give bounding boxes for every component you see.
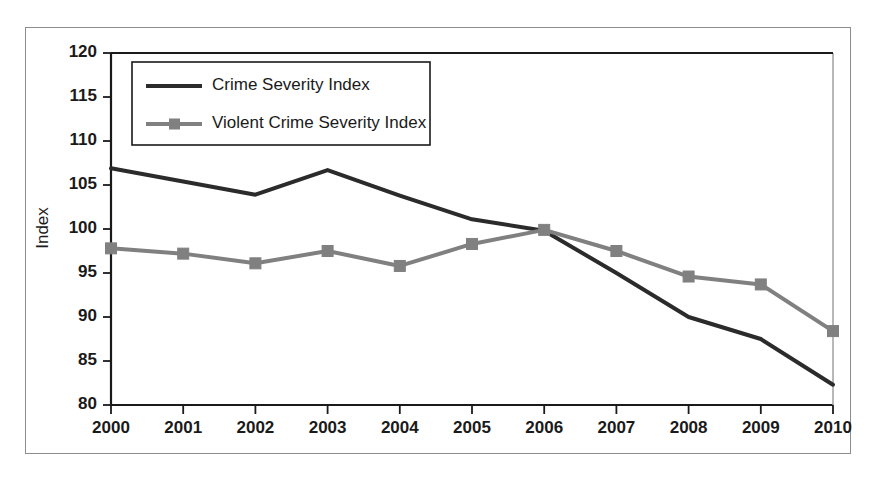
y-tick-label: 85 bbox=[78, 350, 97, 369]
x-tick-label: 2005 bbox=[453, 418, 491, 437]
data-point-marker bbox=[467, 238, 478, 249]
x-tick-label: 2002 bbox=[236, 418, 274, 437]
x-tick-label: 2003 bbox=[309, 418, 347, 437]
x-tick-label: 2009 bbox=[742, 418, 780, 437]
x-tick-label: 2001 bbox=[164, 418, 202, 437]
y-tick-label: 90 bbox=[78, 306, 97, 325]
data-point-marker bbox=[322, 246, 333, 257]
data-point-marker bbox=[539, 224, 550, 235]
y-tick-label: 100 bbox=[69, 218, 97, 237]
legend-label-1: Violent Crime Severity Index bbox=[212, 113, 427, 132]
data-point-marker bbox=[611, 246, 622, 257]
y-tick-label: 95 bbox=[78, 262, 97, 281]
y-tick-label: 120 bbox=[69, 42, 97, 61]
line-chart-plot: 80859095100105110115120 2000200120022003… bbox=[0, 0, 878, 478]
series-line-0 bbox=[111, 168, 833, 384]
legend-marker-1 bbox=[169, 119, 180, 130]
data-series-group bbox=[106, 168, 839, 384]
y-axis-title: Index bbox=[33, 207, 52, 249]
chart-figure: 80859095100105110115120 2000200120022003… bbox=[0, 0, 878, 478]
chart-legend: Crime Severity IndexViolent Crime Severi… bbox=[132, 62, 430, 145]
x-tick-label: 2004 bbox=[381, 418, 419, 437]
x-tick-label: 2006 bbox=[525, 418, 563, 437]
y-axis: 80859095100105110115120 bbox=[69, 42, 111, 413]
x-tick-label: 2008 bbox=[670, 418, 708, 437]
data-point-marker bbox=[755, 279, 766, 290]
data-point-marker bbox=[106, 243, 117, 254]
y-tick-label: 105 bbox=[69, 174, 97, 193]
data-point-marker bbox=[250, 258, 261, 269]
y-tick-label: 115 bbox=[70, 86, 97, 105]
data-point-marker bbox=[683, 271, 694, 282]
x-tick-label: 2000 bbox=[92, 418, 130, 437]
data-point-marker bbox=[394, 260, 405, 271]
data-point-marker bbox=[178, 248, 189, 259]
x-tick-label: 2007 bbox=[597, 418, 635, 437]
data-point-marker bbox=[828, 326, 839, 337]
x-tick-label: 2010 bbox=[814, 418, 852, 437]
y-tick-label: 80 bbox=[78, 394, 97, 413]
legend-label-0: Crime Severity Index bbox=[212, 75, 370, 94]
y-tick-label: 110 bbox=[70, 130, 97, 149]
